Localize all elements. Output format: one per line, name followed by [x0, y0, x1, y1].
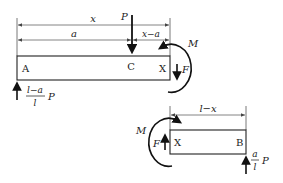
dimension-label-a: a	[71, 28, 77, 39]
point-label-x-bottom: X	[174, 137, 182, 148]
beam-free-body-diagram: x a x−a A C X P F M l−a l P l−x	[0, 0, 283, 183]
dimension-label-x: x	[90, 13, 96, 24]
moment-label-bottom: M	[135, 125, 147, 136]
load-label-p: P	[120, 11, 128, 22]
reaction-a-numerator: l−a	[27, 85, 43, 95]
reaction-a-symbol: P	[47, 91, 55, 102]
point-label-c: C	[127, 61, 135, 72]
moment-label-top: M	[187, 38, 199, 49]
reaction-b-symbol: P	[261, 155, 269, 166]
shear-label-top: F	[181, 64, 190, 75]
reaction-b-denominator: l	[254, 162, 257, 172]
bottom-beam-group: l−x X B F M a l P	[135, 103, 269, 174]
point-label-x-top: X	[159, 63, 167, 74]
bottom-beam	[170, 130, 246, 154]
top-beam-group: x a x−a A C X P F M l−a l P	[17, 11, 199, 108]
point-label-a: A	[21, 63, 30, 74]
point-label-b: B	[236, 137, 243, 148]
reaction-a-denominator: l	[34, 98, 37, 108]
top-beam	[17, 56, 170, 80]
reaction-b-numerator: a	[252, 149, 257, 159]
dimension-label-l-minus-x: l−x	[199, 103, 217, 114]
shear-label-bottom: F	[152, 138, 161, 149]
dimension-label-x-minus-a: x−a	[142, 29, 160, 39]
